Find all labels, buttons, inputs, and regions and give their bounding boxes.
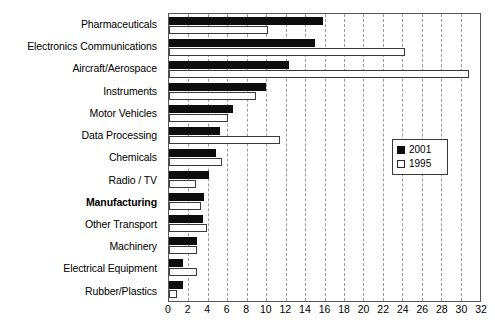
x-tick-label: 16 xyxy=(319,304,331,315)
x-tick-label: 0 xyxy=(165,304,171,315)
bar-2001 xyxy=(169,259,183,267)
x-tick-label: 30 xyxy=(456,304,468,315)
bar-row xyxy=(169,14,480,36)
bar-2001 xyxy=(169,127,220,135)
legend-swatch-icon xyxy=(397,146,405,154)
x-tick-label: 24 xyxy=(397,304,409,315)
bar-1995 xyxy=(169,136,280,144)
x-tick-label: 8 xyxy=(243,304,249,315)
category-label: Radio / TV xyxy=(0,169,163,191)
legend-swatch-icon xyxy=(397,160,405,168)
x-tick-label: 14 xyxy=(299,304,311,315)
x-tick-label: 6 xyxy=(224,304,230,315)
bar-1995 xyxy=(169,180,196,188)
bar-2001 xyxy=(169,171,209,179)
x-tick-label: 2 xyxy=(185,304,191,315)
legend-label: 2001 xyxy=(409,145,431,155)
category-label: Motor Vehicles xyxy=(0,102,163,124)
bar-row xyxy=(169,213,480,235)
legend-label: 1995 xyxy=(409,159,431,169)
bar-row xyxy=(169,58,480,80)
x-tick-label: 12 xyxy=(280,304,292,315)
bar-1995 xyxy=(169,158,222,166)
bar-row xyxy=(169,279,480,301)
horizontal-bar-chart: PharmaceuticalsElectronics Communication… xyxy=(0,0,495,333)
category-label: Manufacturing xyxy=(0,191,163,213)
bar-1995 xyxy=(169,290,177,298)
bar-1995 xyxy=(169,114,228,122)
bar-2001 xyxy=(169,83,266,91)
legend-entry: 2001 xyxy=(397,143,443,157)
bar-2001 xyxy=(169,17,323,25)
bar-1995 xyxy=(169,246,197,254)
x-tick-label: 22 xyxy=(377,304,389,315)
bar-1995 xyxy=(169,92,256,100)
x-tick-label: 32 xyxy=(475,304,487,315)
category-label: Electrical Equipment xyxy=(0,258,163,280)
bar-1995 xyxy=(169,268,197,276)
x-tick-label: 4 xyxy=(204,304,210,315)
x-tick-label: 20 xyxy=(358,304,370,315)
category-label: Aircraft/Aerospace xyxy=(0,57,163,79)
chart-legend: 20011995 xyxy=(392,139,448,175)
legend-entry: 1995 xyxy=(397,157,443,171)
bar-1995 xyxy=(169,48,405,56)
category-label: Rubber/Plastics xyxy=(0,280,163,302)
x-axis-tick-labels: 02468101214161820222426283032 xyxy=(168,304,481,320)
category-label: Data Processing xyxy=(0,124,163,146)
bar-2001 xyxy=(169,193,204,201)
bar-1995 xyxy=(169,70,469,78)
x-tick-label: 10 xyxy=(260,304,272,315)
bar-1995 xyxy=(169,202,201,210)
x-tick-label: 28 xyxy=(436,304,448,315)
bar-1995 xyxy=(169,26,268,34)
bar-row xyxy=(169,102,480,124)
bar-2001 xyxy=(169,105,233,113)
bar-2001 xyxy=(169,237,197,245)
bar-row xyxy=(169,191,480,213)
category-label: Chemicals xyxy=(0,146,163,168)
bar-row xyxy=(169,235,480,257)
category-axis-labels: PharmaceuticalsElectronics Communication… xyxy=(0,13,163,302)
bar-row xyxy=(169,36,480,58)
category-label: Instruments xyxy=(0,80,163,102)
bar-2001 xyxy=(169,281,183,289)
bar-row xyxy=(169,257,480,279)
bar-1995 xyxy=(169,224,207,232)
bar-2001 xyxy=(169,39,315,47)
category-label: Machinery xyxy=(0,235,163,257)
bar-row xyxy=(169,80,480,102)
category-label: Other Transport xyxy=(0,213,163,235)
x-tick-label: 26 xyxy=(416,304,428,315)
bar-2001 xyxy=(169,149,216,157)
bar-2001 xyxy=(169,215,203,223)
bar-2001 xyxy=(169,61,289,69)
category-label: Pharmaceuticals xyxy=(0,13,163,35)
x-tick-label: 18 xyxy=(338,304,350,315)
category-label: Electronics Communications xyxy=(0,35,163,57)
